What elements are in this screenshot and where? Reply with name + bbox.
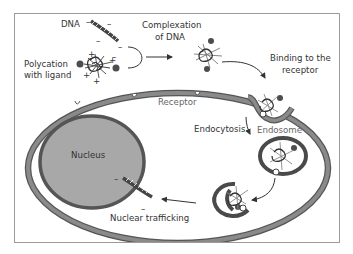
nucleus-label: Nucleus: [71, 150, 106, 160]
dna-charge: –: [107, 19, 111, 29]
complexation-label-line1: Complexation: [142, 20, 201, 30]
polycation-charge: +: [83, 70, 90, 80]
binding-label-line1: Binding to the: [270, 53, 331, 63]
gene-delivery-diagram: Nucleus – – – – DNA + + + + – Polycation…: [0, 0, 353, 254]
nuclear-trafficking-label: Nuclear trafficking: [110, 213, 189, 223]
polycation-charge: +: [93, 76, 100, 86]
dna-charge: –: [118, 42, 122, 52]
nuclear-dna-charge: –: [114, 174, 118, 184]
dna-charge: –: [86, 17, 90, 27]
endosome: [260, 138, 306, 175]
complexation-label-line2: of DNA: [155, 32, 185, 42]
binding-label-line2: receptor: [282, 65, 319, 75]
nucleus: [40, 116, 144, 208]
receptor-label: Receptor: [158, 97, 197, 107]
endosome-label: Endosome: [257, 125, 302, 135]
polycation-charge: +: [88, 49, 95, 59]
polycation-label-line2: with ligand: [24, 70, 71, 80]
endocytosis-label: Endocytosis: [194, 124, 246, 134]
dna-label: DNA: [61, 19, 80, 29]
polycation-label-line1: Polycation: [24, 59, 68, 69]
polycation-charge: –: [112, 52, 116, 62]
dna-charge: –: [96, 36, 100, 46]
